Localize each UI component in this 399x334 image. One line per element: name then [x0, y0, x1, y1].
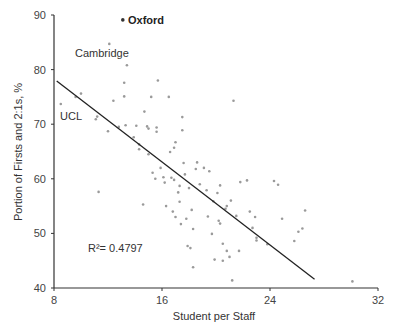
data-point — [123, 81, 126, 84]
data-point — [190, 209, 193, 212]
data-point — [157, 79, 160, 82]
data-point — [159, 167, 162, 170]
data-point — [351, 280, 354, 283]
data-point — [80, 92, 83, 95]
data-point — [163, 181, 166, 184]
data-point — [180, 223, 183, 226]
data-point — [254, 216, 257, 219]
data-point — [174, 141, 177, 144]
data-point — [219, 222, 222, 225]
data-point — [124, 124, 127, 127]
data-point — [182, 162, 185, 165]
data-point — [60, 103, 63, 106]
data-point — [155, 126, 158, 129]
data-point — [255, 239, 258, 242]
data-point — [226, 250, 229, 253]
data-point — [170, 176, 173, 179]
data-point — [232, 99, 235, 102]
data-point — [192, 228, 195, 231]
y-tick-label: 70 — [34, 118, 46, 130]
data-point — [222, 259, 225, 262]
data-point — [135, 125, 138, 128]
data-point — [297, 231, 300, 234]
data-point — [185, 217, 188, 220]
data-point — [301, 227, 304, 230]
y-tick-label: 50 — [34, 227, 46, 239]
data-point — [181, 116, 184, 119]
data-point — [169, 151, 172, 154]
data-point — [150, 96, 153, 99]
data-point — [226, 205, 229, 208]
y-tick-label: 40 — [34, 282, 46, 294]
x-tick-label: 24 — [264, 294, 276, 306]
oxford-label: Oxford — [128, 14, 164, 26]
data-point — [188, 187, 191, 190]
data-point — [235, 215, 238, 218]
data-point — [222, 243, 225, 246]
data-point — [155, 131, 158, 134]
data-point — [177, 191, 180, 194]
data-point — [208, 170, 211, 173]
data-point — [216, 192, 219, 195]
data-point — [184, 173, 187, 176]
data-point — [199, 183, 202, 186]
data-point — [228, 256, 231, 259]
data-point — [281, 217, 284, 220]
data-point — [213, 258, 216, 261]
data-point — [293, 240, 296, 243]
data-point — [126, 64, 129, 67]
data-point — [143, 110, 146, 113]
data-point — [138, 148, 141, 151]
y-axis-title: Portion of Firsts and 2:1s, % — [12, 83, 24, 221]
data-point — [304, 209, 307, 212]
data-point — [108, 43, 111, 46]
data-point — [146, 125, 149, 128]
data-point — [217, 220, 220, 223]
data-point — [112, 99, 115, 102]
data-point — [192, 266, 195, 269]
data-point — [186, 245, 189, 248]
data-point — [95, 118, 98, 121]
data-point — [205, 189, 208, 192]
data-point — [255, 237, 258, 240]
data-point — [132, 136, 135, 139]
data-point — [207, 215, 210, 218]
data-point — [154, 178, 157, 181]
data-point — [231, 279, 234, 282]
data-point — [178, 185, 181, 188]
data-point — [172, 210, 175, 213]
data-point — [96, 115, 99, 118]
x-tick-label: 16 — [156, 294, 168, 306]
data-point — [123, 95, 126, 98]
ucl-label: UCL — [60, 110, 82, 122]
data-point — [211, 233, 214, 236]
data-point — [173, 146, 176, 149]
data-point — [107, 130, 110, 133]
data-point — [174, 216, 177, 219]
data-point — [142, 203, 145, 206]
data-point — [277, 184, 280, 187]
data-point — [97, 191, 100, 194]
y-tick-label: 60 — [34, 173, 46, 185]
cambridge-label: Cambridge — [75, 47, 129, 59]
data-point — [165, 205, 168, 208]
data-point — [173, 179, 176, 182]
y-tick-label: 90 — [34, 9, 46, 21]
data-point — [273, 180, 276, 183]
data-point — [147, 127, 150, 130]
x-tick-label: 8 — [51, 294, 57, 306]
data-point — [230, 199, 233, 202]
data-point — [121, 18, 125, 22]
data-point — [203, 167, 206, 170]
data-point — [151, 172, 154, 175]
data-point — [181, 129, 184, 132]
data-point — [189, 247, 192, 250]
data-point — [219, 184, 222, 187]
data-point — [195, 168, 198, 171]
x-tick-label: 32 — [372, 294, 384, 306]
x-axis-title: Student per Staff — [173, 310, 256, 322]
data-point — [246, 179, 249, 182]
data-point — [147, 153, 150, 156]
data-point — [238, 250, 241, 253]
data-point — [196, 161, 199, 164]
